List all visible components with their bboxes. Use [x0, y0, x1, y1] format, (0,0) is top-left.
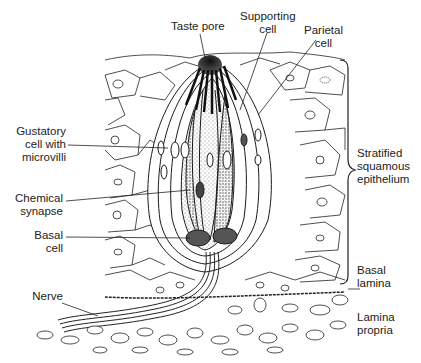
label-supporting-cell: Supporting cell	[240, 10, 296, 36]
label-stratified-squamous-epithelium: Stratified squamous epithelium	[357, 147, 410, 186]
label-lamina-propria: Lamina propria	[357, 311, 395, 337]
label-taste-pore: Taste pore	[171, 20, 225, 33]
label-basal-cell: Basal cell	[34, 229, 63, 255]
label-chemical-synapse: Chemical synapse	[15, 192, 63, 218]
label-parietal-cell: Parietal cell	[304, 24, 343, 50]
basal-lamina-line	[105, 292, 345, 298]
label-nerve: Nerve	[32, 290, 63, 303]
label-gustatory-cell: Gustatory cell with microvilli	[16, 125, 66, 164]
label-basal-lamina: Basal lamina	[357, 264, 391, 290]
taste-bud	[148, 62, 272, 272]
lamina-propria-cells	[37, 295, 348, 355]
